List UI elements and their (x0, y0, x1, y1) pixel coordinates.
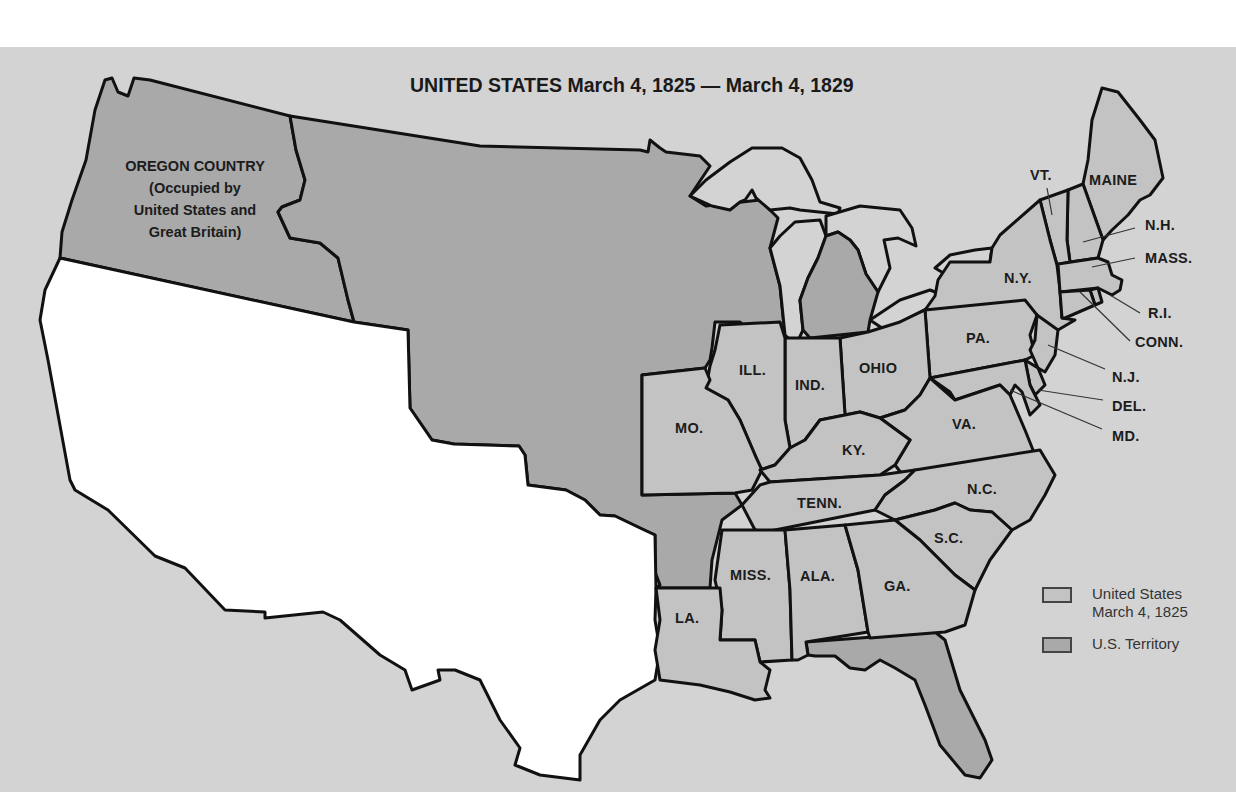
us-map-1825 (0, 0, 1236, 792)
oregon-line-2: United States and (110, 199, 280, 221)
legend: United States March 4, 1825 U.S. Territo… (1042, 585, 1188, 667)
legend-swatch-territory (1042, 637, 1072, 653)
legend-states-line2: March 4, 1825 (1092, 603, 1188, 621)
map-title: UNITED STATES March 4, 1825 — March 4, 1… (410, 74, 854, 97)
region-florida-territory (806, 632, 992, 778)
leader-conn (1080, 292, 1130, 341)
label-ri: R.I. (1148, 305, 1172, 321)
label-conn: CONN. (1135, 334, 1183, 350)
label-maine: MAINE (1089, 172, 1137, 188)
label-del: DEL. (1112, 398, 1146, 414)
label-tenn: TENN. (797, 495, 842, 511)
label-vt: VT. (1030, 167, 1052, 183)
label-sc: S.C. (934, 530, 963, 546)
label-pa: PA. (966, 330, 990, 346)
lake-superior (690, 148, 840, 214)
leader-nj (1048, 345, 1105, 369)
leader-md (1010, 390, 1102, 429)
label-ind: IND. (795, 377, 825, 393)
label-md: MD. (1112, 428, 1139, 444)
label-ny: N.Y. (1004, 270, 1032, 286)
label-va: VA. (952, 416, 976, 432)
title-bold: UNITED STATES (410, 74, 562, 96)
oregon-line-3: Great Britain) (110, 221, 280, 243)
legend-swatch-states (1042, 587, 1072, 603)
label-nh: N.H. (1145, 217, 1175, 233)
label-ill: ILL. (739, 362, 766, 378)
label-ohio: OHIO (859, 360, 897, 376)
oregon-name: OREGON COUNTRY (110, 155, 280, 177)
label-mo: MO. (675, 420, 703, 436)
label-ky: KY. (842, 442, 865, 458)
label-oregon-country: OREGON COUNTRY (Occupied by United State… (110, 155, 280, 243)
legend-states-line1: United States (1092, 585, 1188, 603)
legend-label-territory: U.S. Territory (1092, 635, 1179, 653)
label-mass: MASS. (1145, 250, 1192, 266)
leader-del (1038, 390, 1103, 400)
title-dates: March 4, 1825 — March 4, 1829 (567, 74, 853, 96)
label-miss: MISS. (730, 567, 771, 583)
leader-ri (1110, 295, 1140, 313)
label-ga: GA. (884, 578, 911, 594)
state-conn (1060, 290, 1095, 318)
legend-label-states: United States March 4, 1825 (1092, 585, 1188, 621)
oregon-line-1: (Occupied by (110, 177, 280, 199)
legend-item-territory: U.S. Territory (1042, 635, 1188, 653)
label-ala: ALA. (800, 568, 835, 584)
label-la: LA. (675, 610, 699, 626)
label-nj: N.J. (1112, 369, 1140, 385)
label-nc: N.C. (967, 481, 997, 497)
legend-item-states: United States March 4, 1825 (1042, 585, 1188, 621)
